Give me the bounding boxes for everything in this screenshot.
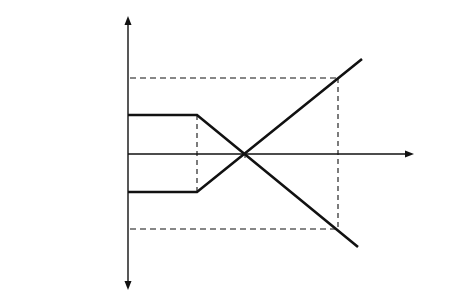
y-axis-up-arrow-icon [125, 16, 132, 25]
option-payoff-diagram [0, 0, 465, 302]
y-axis-down-arrow-icon [125, 281, 132, 290]
buyer-payoff-line [128, 59, 362, 192]
seller-payoff-line [128, 115, 358, 247]
x-axis-right-arrow-icon [405, 151, 414, 158]
